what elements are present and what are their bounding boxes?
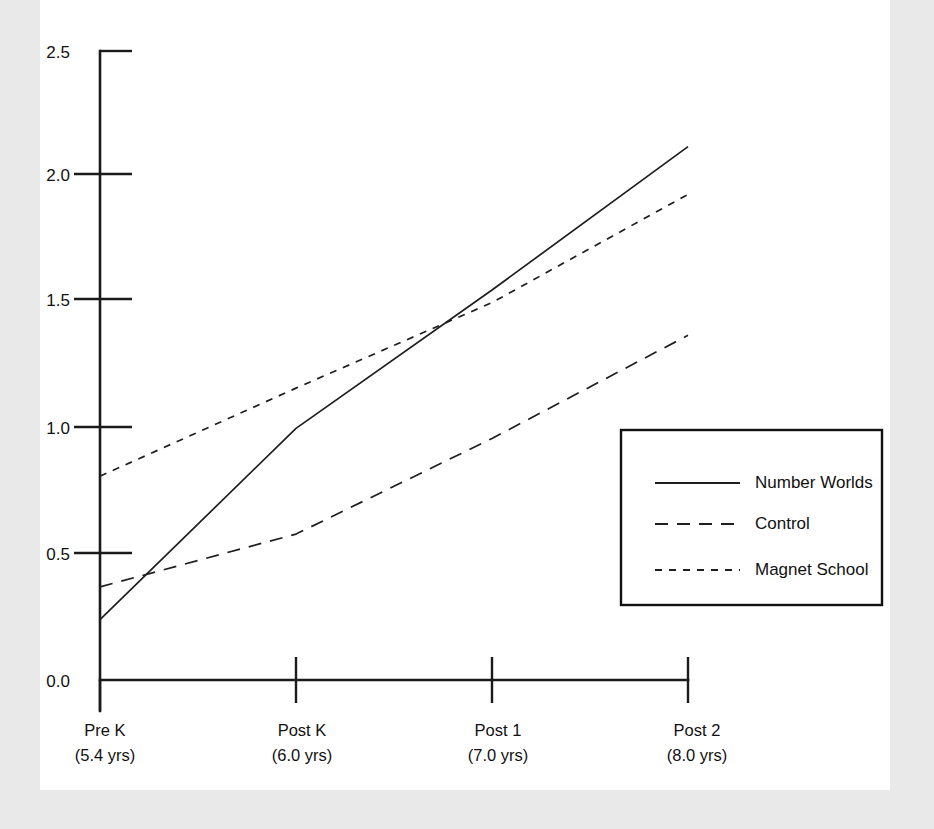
x-sublabel-post-1: (7.0 yrs) bbox=[468, 746, 529, 764]
series-control bbox=[100, 335, 688, 587]
y-axis-tick-labels: 2.5 2.0 1.5 1.0 0.5 0.0 bbox=[46, 43, 70, 691]
line-chart: 2.5 2.0 1.5 1.0 0.5 0.0 Pre K (5.4 yrs) … bbox=[0, 0, 934, 829]
x-tick-label-post-k: Post K bbox=[278, 721, 327, 739]
x-tick-label-post-2: Post 2 bbox=[674, 721, 721, 739]
x-tick-label-pre-k: Pre K bbox=[84, 721, 125, 739]
legend-label-magnet-school: Magnet School bbox=[755, 560, 868, 579]
y-axis-ticks bbox=[74, 51, 132, 553]
x-sublabel-pre-k: (5.4 yrs) bbox=[75, 746, 136, 764]
y-tick-label-4: 2.0 bbox=[46, 166, 70, 185]
x-axis-ticks bbox=[100, 657, 688, 711]
x-sublabel-post-k: (6.0 yrs) bbox=[272, 746, 333, 764]
figure-root: 2.5 2.0 1.5 1.0 0.5 0.0 Pre K (5.4 yrs) … bbox=[0, 0, 934, 829]
series-magnet-school bbox=[100, 194, 688, 476]
legend-label-number-worlds: Number Worlds bbox=[755, 473, 873, 492]
y-tick-label-2: 1.0 bbox=[46, 419, 70, 438]
y-tick-label-1: 0.5 bbox=[46, 545, 70, 564]
y-tick-label-3: 1.5 bbox=[46, 291, 70, 310]
legend-label-control: Control bbox=[755, 514, 810, 533]
x-axis-tick-labels: Pre K (5.4 yrs) Post K (6.0 yrs) Post 1 … bbox=[75, 721, 728, 764]
y-tick-label-0: 0.0 bbox=[46, 672, 70, 691]
series-group bbox=[100, 147, 688, 620]
y-tick-label-5: 2.5 bbox=[46, 43, 70, 62]
x-tick-label-post-1: Post 1 bbox=[475, 721, 522, 739]
series-number-worlds bbox=[100, 147, 688, 620]
legend: Number Worlds Control Magnet School bbox=[621, 430, 882, 605]
x-sublabel-post-2: (8.0 yrs) bbox=[667, 746, 728, 764]
